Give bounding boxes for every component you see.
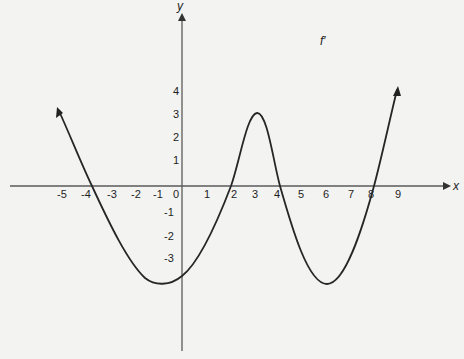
y-axis-label: y <box>176 0 184 13</box>
y-tick-label: 2 <box>173 131 179 143</box>
x-tick-label: 0 <box>173 188 179 200</box>
x-tick-label: -3 <box>107 188 117 200</box>
x-tick-label: 5 <box>298 188 304 200</box>
y-tick-label: -3 <box>164 252 174 264</box>
y-tick-label: -2 <box>164 230 174 242</box>
x-tick-label: 7 <box>348 188 354 200</box>
function-label: f′ <box>320 34 326 48</box>
f-prime-curve <box>59 90 397 284</box>
graph-of-f-prime: x y f′ -5 -4 -3 -2 -1 0 1 2 3 4 5 6 7 8 … <box>0 0 464 359</box>
x-tick-label: -5 <box>57 188 67 200</box>
x-tick-label: 4 <box>274 188 280 200</box>
x-tick-label: 1 <box>204 188 210 200</box>
y-tick-label: 3 <box>173 108 179 120</box>
x-tick-label: 9 <box>395 188 401 200</box>
x-axis-label: x <box>452 179 460 193</box>
y-tick-label: 4 <box>173 85 179 97</box>
y-tick-labels: 4 3 2 1 -1 -2 -3 <box>164 85 179 264</box>
x-tick-label: -1 <box>153 188 163 200</box>
y-tick-label: -1 <box>164 206 174 218</box>
x-tick-label: 6 <box>323 188 329 200</box>
x-tick-label: -4 <box>81 188 91 200</box>
y-tick-label: 1 <box>173 154 179 166</box>
x-tick-label: 2 <box>231 188 237 200</box>
x-tick-label: -2 <box>131 188 141 200</box>
right-arrow-icon <box>393 86 401 96</box>
x-tick-label: 3 <box>252 188 258 200</box>
